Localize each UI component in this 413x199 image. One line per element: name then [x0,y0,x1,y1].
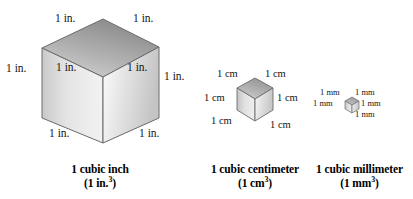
edge-label-top-right: 1 in. [133,13,153,25]
caption-prefix: (1 mm [340,177,371,189]
cube-cubic-millimeter [306,0,413,160]
caption-prefix: (1 cm [238,177,265,189]
edge-label-bottom-right: 1 in. [139,128,159,140]
edge-label-top-left: 1 in. [55,13,75,25]
caption-cubic-millimeter: 1 cubic millimeter (1 mm3) [301,162,413,190]
edge-label-bottom-right: 1 cm [270,120,291,131]
diagram-canvas: 1 in. 1 in. 1 in. 1 in. 1 in. 1 in. 1 in… [0,0,413,199]
caption-line-1: 1 cubic inch [20,162,180,176]
edge-label-right-inner: 1 in. [127,62,147,74]
edge-label-right-outer: 1 in. [164,71,184,83]
edge-label-left: 1 cm [204,93,225,104]
edge-label-left-inner: 1 in. [56,62,76,74]
edge-label-right: 1 cm [277,93,298,104]
caption-line-2: (1 mm3) [301,176,413,190]
edge-label-right: 1 mm [361,99,381,108]
edge-label-top-left: 1 mm [320,88,340,97]
figure-cubic-inch: 1 in. 1 in. 1 in. 1 in. 1 in. 1 in. 1 in… [0,0,200,199]
caption-cubic-inch: 1 cubic inch (1 in.3) [20,162,180,190]
caption-line-1: 1 cubic millimeter [301,162,413,176]
figure-cubic-millimeter: 1 mm 1 mm 1 mm 1 mm 1 mm 1 cubic millime… [306,0,413,199]
edge-label-left-outer: 1 in. [6,63,26,75]
edge-label-bottom-left: 1 cm [211,116,232,127]
figure-cubic-centimeter: 1 cm 1 cm 1 cm 1 cm 1 cm 1 cm 1 cubic ce… [196,0,316,199]
caption-suffix: ) [112,177,116,189]
edge-label-top-right: 1 cm [265,69,286,80]
caption-line-2: (1 in.3) [20,176,180,190]
caption-suffix: ) [375,177,379,189]
edge-label-top-right: 1 mm [355,88,375,97]
edge-label-top-left: 1 cm [217,69,238,80]
edge-label-bottom-right: 1 mm [355,110,375,119]
edge-label-bottom-left: 1 in. [49,128,69,140]
caption-suffix: ) [268,177,272,189]
edge-label-left: 1 mm [313,99,333,108]
cube-cubic-centimeter [196,0,316,160]
caption-prefix: (1 in. [84,177,108,189]
